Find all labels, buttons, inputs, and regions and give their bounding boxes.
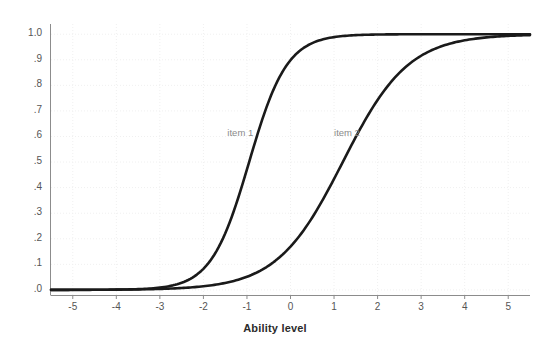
y-tick-label: 1.0 bbox=[14, 27, 42, 38]
x-tick-label: 0 bbox=[276, 301, 306, 312]
x-tick-label: -5 bbox=[58, 301, 88, 312]
y-tick-label: .8 bbox=[14, 78, 42, 89]
x-tick-label: 5 bbox=[493, 301, 523, 312]
y-tick-label: .4 bbox=[14, 181, 42, 192]
x-tick-label: -3 bbox=[145, 301, 175, 312]
y-tick-label: .1 bbox=[14, 257, 42, 268]
item-characteristic-curve-chart bbox=[0, 0, 550, 350]
y-tick-label: .3 bbox=[14, 206, 42, 217]
x-tick-label: 3 bbox=[406, 301, 436, 312]
x-tick-label: 1 bbox=[319, 301, 349, 312]
y-tick-label: .5 bbox=[14, 155, 42, 166]
x-tick-label: -2 bbox=[188, 301, 218, 312]
y-tick-label: .2 bbox=[14, 232, 42, 243]
x-tick-label: -1 bbox=[232, 301, 262, 312]
x-axis-title: Ability level bbox=[0, 322, 550, 334]
x-tick-label: 2 bbox=[363, 301, 393, 312]
y-tick-label: .7 bbox=[14, 104, 42, 115]
y-tick-label: .9 bbox=[14, 53, 42, 64]
curve-label-item-1: item 1 bbox=[227, 127, 253, 138]
x-tick-label: -4 bbox=[101, 301, 131, 312]
x-tick-label: 4 bbox=[450, 301, 480, 312]
curve-label-item-2: item 2 bbox=[334, 127, 360, 138]
y-tick-label: .6 bbox=[14, 129, 42, 140]
chart-background bbox=[0, 0, 550, 350]
y-tick-label: .0 bbox=[14, 283, 42, 294]
